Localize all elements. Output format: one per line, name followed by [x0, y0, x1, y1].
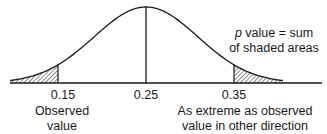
- left-tail-shaded-area: [10, 65, 58, 83]
- tick-label-0-25: 0.25: [134, 88, 158, 103]
- p-symbol: p: [235, 26, 242, 40]
- opposite-caption-line-1: As extreme as observed: [170, 104, 320, 119]
- tick-label-0-15: 0.15: [51, 88, 75, 103]
- observed-caption-line-2: value: [32, 119, 92, 134]
- opposite-caption-line-2: value in other direction: [170, 119, 320, 134]
- observed-value-caption: Observed value: [32, 104, 92, 134]
- p-value-annotation: p value = sum of shaded areas: [226, 26, 322, 56]
- annotation-line-2: of shaded areas: [226, 41, 322, 56]
- annotation-line-1: value = sum: [242, 26, 313, 40]
- observed-caption-line-1: Observed: [32, 104, 92, 119]
- tick-label-0-35: 0.35: [222, 88, 246, 103]
- right-tail-shaded-area: [234, 65, 283, 83]
- opposite-direction-caption: As extreme as observed value in other di…: [170, 104, 320, 134]
